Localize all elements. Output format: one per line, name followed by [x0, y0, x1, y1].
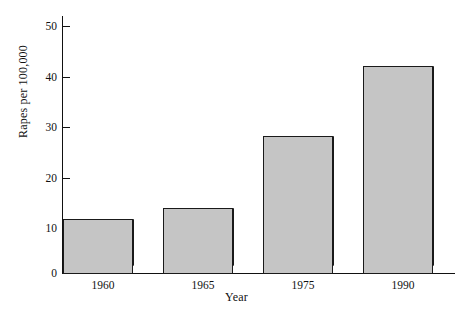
y-tick-label-0: 0 — [17, 268, 57, 280]
bar-front-face — [363, 66, 433, 274]
y-tick-30 — [63, 127, 70, 128]
y-tick-label-50: 50 — [17, 21, 57, 33]
y-tick-50 — [63, 26, 70, 27]
y-tick-40 — [63, 77, 70, 78]
y-tick-20 — [63, 178, 70, 179]
bar-1965 — [163, 200, 245, 274]
bar-1975 — [263, 128, 345, 274]
bar-front-face — [163, 208, 233, 274]
bar-1960 — [63, 210, 145, 274]
bar-chart: Rapes per 100,000 50 40 30 20 10 0 1960 … — [0, 0, 473, 311]
y-tick-label-40: 40 — [17, 72, 57, 84]
y-tick-label-20: 20 — [17, 173, 57, 185]
bar-front-face — [263, 136, 333, 274]
x-axis-label: Year — [0, 290, 473, 305]
y-axis-label: Rapes per 100,000 — [16, 17, 31, 167]
bar-1990 — [363, 58, 445, 274]
y-tick-label-30: 30 — [17, 122, 57, 134]
bar-front-face — [63, 219, 133, 274]
y-tick-label-10: 10 — [17, 223, 57, 235]
